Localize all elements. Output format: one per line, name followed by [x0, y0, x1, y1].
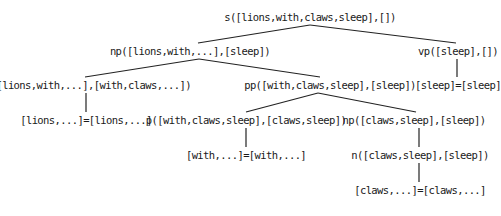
tree-node-vp: vp([sleep],[]): [418, 44, 498, 58]
tree-node-np1: np([lions,with,...],[sleep]): [110, 44, 270, 58]
tree-edge-np1-n1: [85, 59, 199, 77]
tree-node-vp_leaf: [sleep]=[sleep]: [415, 78, 501, 92]
tree-edge-pp-p: [246, 93, 318, 112]
tree-node-s: s([lions,with,claws,sleep],[]): [224, 10, 396, 24]
tree-edge-np1-pp: [199, 59, 320, 77]
tree-node-n1_leaf: [lions,...]=[lions,...]: [20, 113, 152, 127]
tree-node-n2_leaf: [claws,...]=[claws,...]: [354, 183, 486, 197]
tree-edge-pp-np2: [318, 93, 416, 112]
tree-node-n2: n([claws,sleep],[sleep]): [351, 148, 488, 162]
tree-node-np2: np([claws,sleep],[sleep]): [342, 113, 485, 127]
tree-node-n1: n([lions,with,...],[with,claws,...]): [0, 78, 191, 92]
tree-node-p_leaf: [with,...]=[with,...]: [186, 148, 306, 162]
tree-node-p: p([with,claws,sleep],[claws,sleep]): [146, 113, 346, 127]
tree-edge-s-vp: [310, 25, 456, 43]
tree-edge-s-np1: [198, 25, 310, 43]
tree-node-pp: pp([with,claws,sleep],[sleep]): [244, 78, 416, 92]
